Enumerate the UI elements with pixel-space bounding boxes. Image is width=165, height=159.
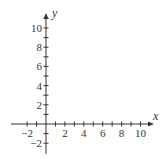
x-tick-label: 4 [81, 127, 87, 139]
x-tick-label: 2 [62, 127, 68, 139]
y-tick-label: 10 [31, 22, 43, 34]
tick-labels: −2246810−2246810 [21, 22, 146, 149]
y-tick-label: 6 [37, 60, 43, 72]
x-tick-label: 6 [100, 127, 106, 139]
y-tick-label: 8 [37, 41, 43, 53]
x-axis-label: x [152, 109, 159, 123]
x-tick-label: 10 [135, 127, 147, 139]
y-tick-label: 4 [37, 80, 43, 92]
axes-svg: −2246810−2246810 x y [0, 0, 165, 159]
coordinate-plane: −2246810−2246810 x y [0, 0, 165, 159]
x-tick-label: 8 [119, 127, 125, 139]
y-tick-label: −2 [30, 137, 42, 149]
y-axis-label: y [51, 6, 58, 20]
y-tick-label: 2 [37, 99, 43, 111]
